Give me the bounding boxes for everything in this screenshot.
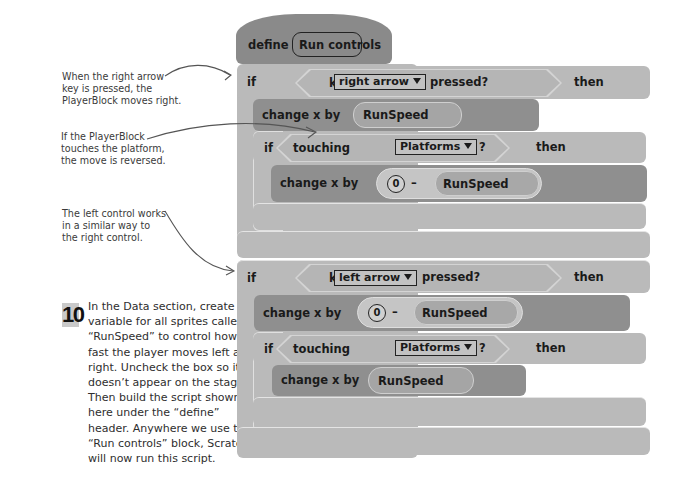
arrow-touching-annotation — [147, 124, 315, 139]
arrow-head-icon — [306, 127, 316, 138]
arrow-left-annotation — [165, 211, 233, 271]
arrow-right-annotation — [165, 65, 230, 76]
annotation-arrows — [0, 0, 678, 478]
